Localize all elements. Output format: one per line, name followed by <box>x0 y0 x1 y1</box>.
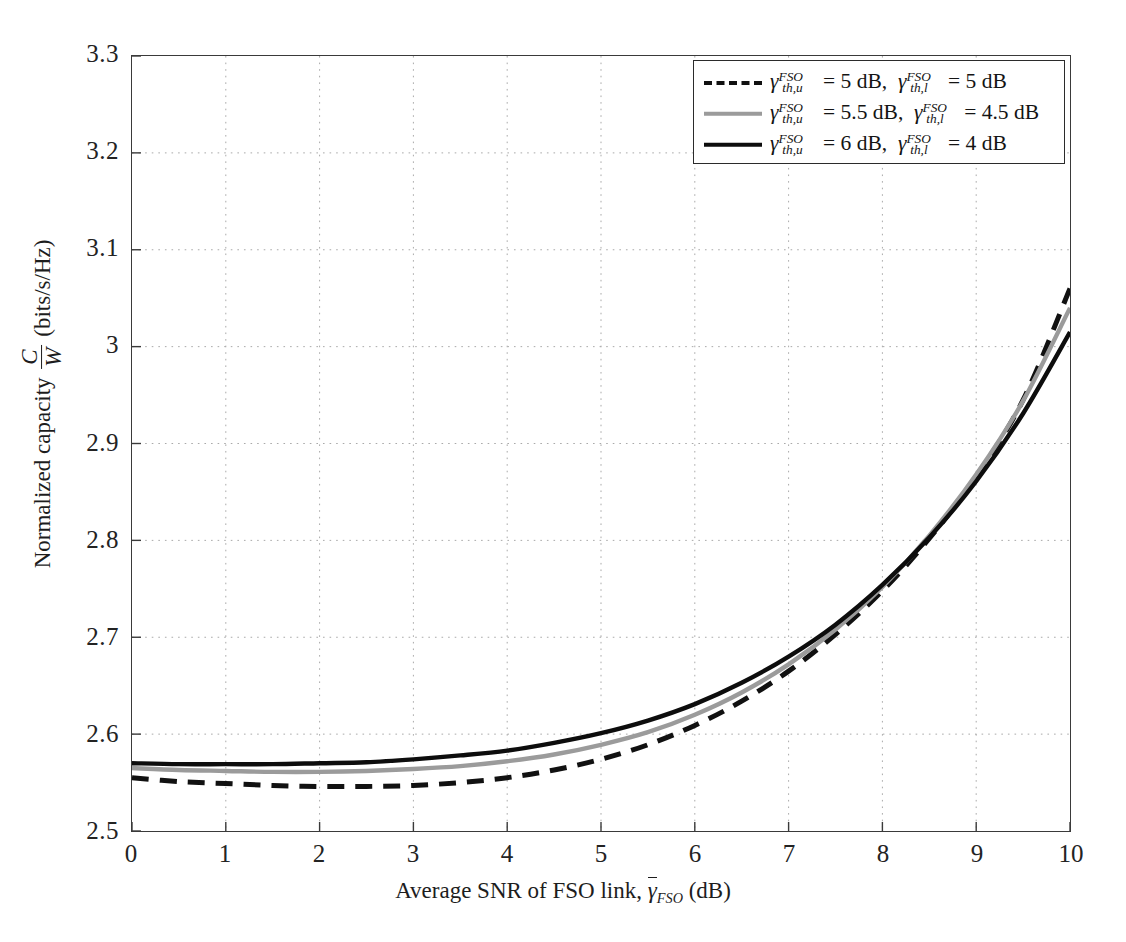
legend-line-sample <box>702 105 764 123</box>
legend-line-sample <box>702 74 764 92</box>
x-tick-label: 0 <box>101 840 161 868</box>
y-axis-label: Normalized capacity C W (bits/s/Hz) <box>18 74 66 734</box>
x-tick-label: 9 <box>947 840 1007 868</box>
legend-label: γFSOth,u= 6 dB, γFSOth,l= 4 dB <box>770 132 1007 157</box>
legend-line-glyph <box>704 142 762 147</box>
plot-area <box>131 55 1071 832</box>
curve-layer <box>132 56 1070 831</box>
y-axis-label-denominator: W <box>43 345 66 368</box>
legend-line-glyph <box>704 111 762 116</box>
legend-item-1[interactable]: γFSOth,u= 5 dB, γFSOth,l= 5 dB <box>702 67 1054 98</box>
y-axis-label-prefix: Normalized capacity <box>30 377 55 568</box>
x-axis-label: Average SNR of FSO link, γFSO (dB) <box>0 878 1126 907</box>
x-tick-label: 5 <box>571 840 631 868</box>
legend-label: γFSOth,u= 5.5 dB, γFSOth,l= 4.5 dB <box>770 101 1039 126</box>
x-axis-label-unit: (dB) <box>689 878 731 903</box>
legend: γFSOth,u= 5 dB, γFSOth,l= 5 dBγFSOth,u= … <box>693 60 1065 164</box>
x-tick-label: 3 <box>383 840 443 868</box>
figure-root: 2.52.62.72.82.933.13.23.3 012345678910 N… <box>0 0 1126 942</box>
legend-item-3[interactable]: γFSOth,u= 6 dB, γFSOth,l= 4 dB <box>702 129 1054 160</box>
y-tick-label: 3.3 <box>53 40 119 68</box>
x-axis-label-symbol: γ <box>648 878 657 904</box>
y-axis-label-fraction: C W <box>18 345 66 368</box>
x-tick-label: 8 <box>853 840 913 868</box>
x-tick-label: 10 <box>1041 840 1101 868</box>
series-line-3 <box>132 332 1070 764</box>
x-tick-label: 6 <box>665 840 725 868</box>
legend-label: γFSOth,u= 5 dB, γFSOth,l= 5 dB <box>770 70 1007 95</box>
x-tick-label: 2 <box>289 840 349 868</box>
legend-line-sample <box>702 136 764 154</box>
x-axis-label-symbol-sub: FSO <box>657 890 683 906</box>
x-tick-label: 1 <box>195 840 255 868</box>
legend-item-2[interactable]: γFSOth,u= 5.5 dB, γFSOth,l= 4.5 dB <box>702 98 1054 129</box>
legend-line-glyph <box>704 81 762 85</box>
x-tick-label: 7 <box>759 840 819 868</box>
x-axis-label-prefix: Average SNR of FSO link, <box>395 878 642 903</box>
x-tick-label: 4 <box>477 840 537 868</box>
y-axis-label-numerator: C <box>18 345 42 368</box>
y-axis-label-unit: (bits/s/Hz) <box>30 240 55 337</box>
